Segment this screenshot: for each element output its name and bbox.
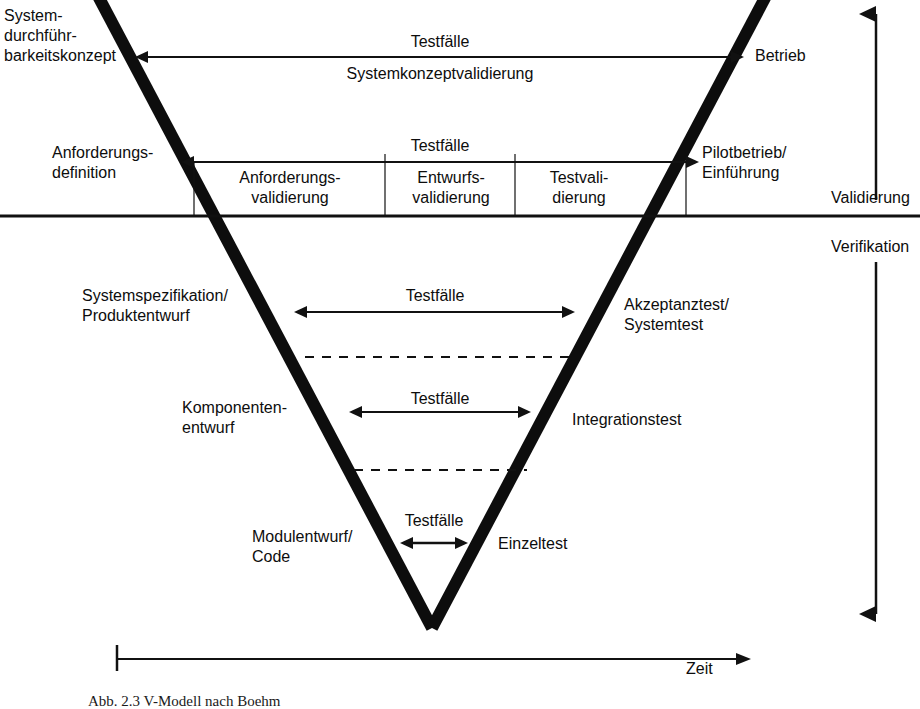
connector-label-component-top: Testfälle xyxy=(340,389,540,409)
validation-band-test: Testvali- dierung xyxy=(519,168,639,208)
connector-label-system-concept-top: Testfälle xyxy=(340,32,540,52)
stage-label-system-specification: Systemspezifikation/ Produktentwurf xyxy=(82,286,228,326)
v-model-diagram: System- durchführ- barkeitskonzept Anfor… xyxy=(0,0,920,709)
stage-label-operation: Betrieb xyxy=(755,46,806,66)
connector-label-system-concept-bottom: Systemkonzeptvalidierung xyxy=(290,64,590,84)
validation-band-requirements: Anforderungs- validierung xyxy=(200,168,380,208)
validation-band-design: Entwurfs- validierung xyxy=(390,168,512,208)
stage-label-module-design-code: Modulentwurf/ Code xyxy=(252,527,353,567)
axis-label-verifikation: Verifikation xyxy=(831,237,909,257)
connector-label-requirements-top: Testfälle xyxy=(340,136,540,156)
stage-label-acceptance-system-test: Akzeptanztest/ Systemtest xyxy=(624,295,729,335)
axis-label-zeit: Zeit xyxy=(686,659,713,679)
diagram-canvas xyxy=(0,0,920,709)
stage-label-requirements-definition: Anforderungs- definition xyxy=(52,143,153,183)
axis-label-validierung: Validierung xyxy=(831,188,910,208)
stage-label-pilot-operation: Pilotbetrieb/ Einführung xyxy=(702,143,787,183)
stage-label-integration-test: Integrationstest xyxy=(572,410,681,430)
connector-label-module-top: Testfälle xyxy=(334,511,534,531)
stage-label-component-design: Komponenten- entwurf xyxy=(182,398,287,438)
stage-label-system-feasibility: System- durchführ- barkeitskonzept xyxy=(4,6,116,66)
figure-caption: Abb. 2.3 V-Modell nach Boehm xyxy=(88,692,281,709)
stage-label-unit-test: Einzeltest xyxy=(498,534,567,554)
connector-label-specification-top: Testfälle xyxy=(335,286,535,306)
